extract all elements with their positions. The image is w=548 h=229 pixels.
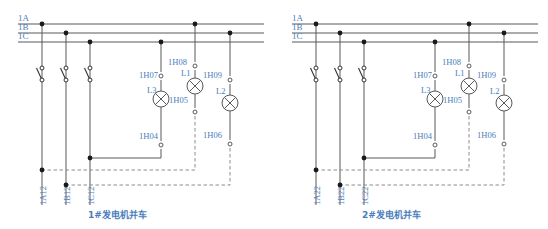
lamp-label-L3: L3	[421, 86, 430, 95]
outgoing-label-1A22: 1A22	[313, 186, 322, 205]
terminal-1H09	[502, 78, 506, 82]
switch-b-terminal-top	[64, 66, 68, 70]
generator-paralleling-diagram-2: 1A 1B 1C 1H08 1H07 1H09 1H05 1H04 1H06 L…	[274, 0, 548, 229]
terminal-label-1H09: 1H09	[477, 71, 496, 80]
terminal-label-1H04: 1H04	[413, 132, 432, 141]
terminal-1H04	[159, 143, 163, 147]
junction-1B-branch-L2	[502, 31, 507, 36]
terminal-1H08	[193, 64, 197, 68]
schematic-figure: 1A 1B 1C 1H08 1H07 1H09 1H05 1H04 1H06 L…	[0, 0, 548, 229]
junction-1C-feeder-c	[362, 40, 367, 45]
junction-1B-feeder-b	[338, 31, 343, 36]
junction-1B-branch-L2	[228, 31, 233, 36]
terminal-1H07	[159, 74, 163, 78]
outgoing-label-1B22: 1B22	[337, 187, 346, 205]
lamp-label-L1: L1	[181, 69, 190, 78]
lamp-label-L2: L2	[216, 87, 225, 96]
terminal-1H05	[467, 110, 471, 114]
junction-1A-branch-L1	[467, 22, 472, 27]
lamp-label-L1: L1	[455, 69, 464, 78]
junction-feeder-a-dashed	[40, 168, 45, 173]
switch-b-terminal-top	[338, 66, 342, 70]
junction-1B-feeder-b	[64, 31, 69, 36]
switch-b-terminal-bottom	[64, 78, 68, 82]
bus-label-1C: 1C	[18, 32, 29, 41]
terminal-1H05	[193, 110, 197, 114]
diagram-caption-1: 1#发电机并车	[88, 211, 147, 220]
terminal-1H07	[433, 74, 437, 78]
generator-paralleling-diagram-1: 1A 1B 1C 1H08 1H07 1H09 1H05 1H04 1H06 L…	[0, 0, 274, 229]
terminal-1H09	[228, 78, 232, 82]
junction-1A-feeder-a	[40, 22, 45, 27]
switch-c-terminal-top	[88, 66, 92, 70]
terminal-1H08	[467, 64, 471, 68]
terminal-label-1H07: 1H07	[413, 71, 432, 80]
outgoing-label-1C12: 1C12	[87, 187, 96, 205]
outgoing-label-1B12: 1B12	[63, 187, 72, 205]
terminal-label-1H08: 1H08	[168, 58, 187, 67]
junction-feeder-a-dashed	[314, 168, 319, 173]
lamp-label-L3: L3	[147, 86, 156, 95]
junction-1A-branch-L1	[193, 22, 198, 27]
lamp-label-L2: L2	[490, 87, 499, 96]
junction-1C-feeder-c	[88, 40, 93, 45]
junction-dots	[40, 22, 233, 188]
terminal-label-1H06: 1H06	[203, 131, 222, 140]
terminal-1H06	[228, 142, 232, 146]
diagram-caption-2: 2#发电机并车	[362, 211, 421, 220]
terminal-label-1H05: 1H05	[443, 96, 462, 105]
junction-1A-feeder-a	[314, 22, 319, 27]
terminal-label-1H09: 1H09	[203, 71, 222, 80]
junction-feeder-c-tie	[362, 156, 367, 161]
dashed-return-outer	[66, 148, 230, 185]
switch-a-terminal-top	[40, 66, 44, 70]
terminal-label-1H05: 1H05	[169, 96, 188, 105]
dashed-return-inner	[316, 116, 469, 170]
switch-a-terminal-bottom	[314, 78, 318, 82]
terminal-label-1H06: 1H06	[477, 131, 496, 140]
outgoing-label-1A12: 1A12	[39, 186, 48, 205]
switch-c-terminal-bottom	[362, 78, 366, 82]
terminal-1H04	[433, 143, 437, 147]
junction-1C-branch-L3	[159, 40, 164, 45]
terminal-label-1H08: 1H08	[442, 58, 461, 67]
terminal-label-1H04: 1H04	[139, 132, 158, 141]
junction-feeder-c-tie	[88, 156, 93, 161]
outgoing-label-1C22: 1C22	[361, 187, 370, 205]
terminal-1H06	[502, 142, 506, 146]
switch-b-terminal-bottom	[338, 78, 342, 82]
bus-label-1C: 1C	[292, 32, 303, 41]
junction-1C-branch-L3	[433, 40, 438, 45]
switch-c-terminal-bottom	[88, 78, 92, 82]
dashed-return-outer	[340, 148, 504, 185]
switch-a-terminal-top	[314, 66, 318, 70]
terminal-label-1H07: 1H07	[139, 71, 158, 80]
junction-dots	[314, 22, 507, 188]
switch-c-terminal-top	[362, 66, 366, 70]
dashed-return-inner	[42, 116, 195, 170]
switch-a-terminal-bottom	[40, 78, 44, 82]
